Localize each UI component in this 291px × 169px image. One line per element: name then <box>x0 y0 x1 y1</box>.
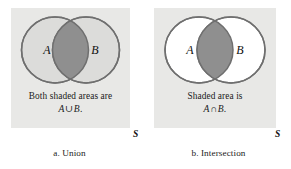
universal-set-box-union: A B Both shaded areas are A∪B. <box>11 8 130 128</box>
intersection-expr-period: . <box>224 103 227 114</box>
universal-set-label-intersection: S <box>275 129 280 139</box>
description-union: Both shaded areas are A∪B. <box>11 90 130 115</box>
description-intersection: Shaded area is A∩B. <box>154 90 276 115</box>
description-line2-intersection: A∩B. <box>154 103 276 116</box>
venn-drawing-union: A B <box>11 12 130 88</box>
venn-diagram-figure: A B Both shaded areas are A∪B. S a. Unio… <box>0 0 291 169</box>
caption-intersection: b. Intersection <box>146 148 291 158</box>
description-line2-union: A∪B. <box>11 103 130 116</box>
set-label-b-union: B <box>91 43 99 57</box>
union-expr-left: A <box>59 103 65 114</box>
description-line1-union: Both shaded areas are <box>11 90 130 103</box>
description-line1-intersection: Shaded area is <box>154 90 276 103</box>
union-operator-icon: ∪ <box>65 103 74 114</box>
intersection-expr-left: A <box>204 103 210 114</box>
set-label-b-intersection: B <box>236 43 244 57</box>
intersection-operator-icon: ∩ <box>210 103 218 114</box>
universal-set-box-intersection: A B Shaded area is A∩B. <box>154 8 276 128</box>
venn-svg-intersection: A B <box>154 12 276 88</box>
panel-union: A B Both shaded areas are A∪B. S a. Unio… <box>0 0 145 169</box>
panel-intersection: A B Shaded area is A∩B. S b. Intersectio… <box>146 0 291 169</box>
set-label-a-union: A <box>42 43 51 57</box>
union-expr-period: . <box>80 103 83 114</box>
caption-union: a. Union <box>0 148 145 158</box>
venn-svg-union: A B <box>11 12 130 88</box>
universal-set-label-union: S <box>133 129 138 139</box>
set-label-a-intersection: A <box>185 43 194 57</box>
venn-drawing-intersection: A B <box>154 12 276 88</box>
